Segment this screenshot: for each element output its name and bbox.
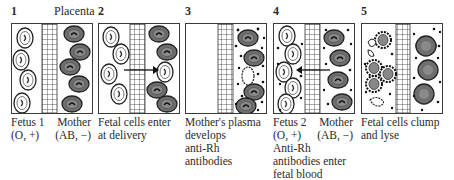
fetus-blood-type: (O, +) [11,129,39,142]
panel-number: 3 [185,4,191,19]
panel-number: 1 [11,4,17,19]
fetus-label: Fetus 2 [273,116,307,129]
panel-3: 3 Mother's plasma develops anti-Rh antib… [185,0,269,180]
placenta-membrane [130,24,145,113]
mother-blood-type: (AB, −) [317,129,353,142]
panel-2: 2 Fetal cells enter at delivery [98,0,182,180]
blood-cells-illustration [12,24,92,113]
panel-1-illustration [11,23,93,114]
panel-1-caption: Fetus 1 Mother (O, +) (AB, −) [11,116,103,142]
placenta-membrane [42,24,57,113]
panel-4-caption: Fetus 2 Mother (O, +) (AB, −) Anti-Rh an… [273,116,365,180]
panel-5-illustration [361,23,443,114]
panel-5: 5 Fetal cel [361,0,445,180]
panel-number: 5 [361,4,367,19]
panel-3-illustration [185,23,267,114]
placenta-membrane [305,24,320,113]
panel-3-caption: Mother's plasma develops anti-Rh antibod… [185,116,277,168]
panel-2-caption: Fetal cells enter at delivery [98,116,190,142]
mother-label: Mother [319,116,353,129]
blood-cells-illustration [186,24,266,113]
panel-5-caption: Fetal cells clump and lyse [361,116,453,142]
blood-cells-illustration [99,24,179,113]
panel-1: 1 Placenta Fetus 1 Mother (O, +) (AB, −) [11,0,95,180]
fetus-label: Fetus 1 [11,116,45,129]
panel-4-illustration [273,23,355,114]
mother-blood-type: (AB, −) [55,129,91,142]
placenta-membrane [218,24,233,113]
blood-cells-illustration [362,24,442,113]
panel-number: 2 [98,4,104,19]
placenta-membrane [396,24,410,113]
mother-label: Mother [57,116,91,129]
fetus-blood-type: (O, +) [273,129,301,142]
panel-4: 4 Fetus 2 Mo [273,0,357,180]
placenta-label: Placenta [54,4,95,19]
panel-2-illustration [98,23,180,114]
blood-cells-illustration [274,24,354,113]
panel-number: 4 [273,4,279,19]
